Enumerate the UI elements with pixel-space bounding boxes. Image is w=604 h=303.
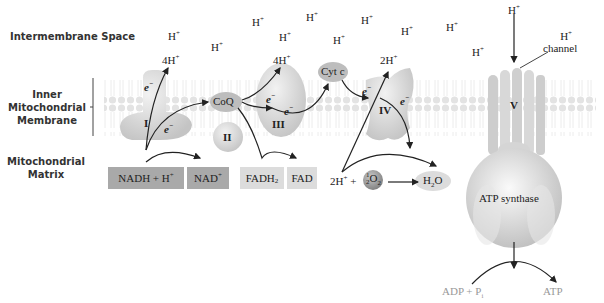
proton: H+	[508, 3, 520, 16]
matrix-line-2: Matrix	[6, 168, 86, 181]
atp-label: ATP	[543, 285, 563, 297]
proton-channel-label: H+ channel	[555, 27, 577, 54]
coq-label: CoQ	[213, 95, 234, 107]
electron-transport-chain-diagram: Intermembrane Space Inner Mitochondrial …	[0, 0, 604, 303]
proton: H+	[401, 24, 413, 37]
diagram-graphics	[0, 0, 604, 303]
electron: e−	[362, 84, 371, 97]
four-protons-complex-i: 4H+	[162, 53, 179, 66]
atp-synthase-label: ATP synthase	[479, 192, 539, 204]
electron: e−	[284, 104, 293, 117]
complex-i-label: I	[144, 117, 148, 129]
matrix-protons: 2H+ +	[330, 174, 356, 187]
proton: H+	[361, 13, 373, 26]
inner-membrane-label: Inner Mitochondrial Membrane	[4, 88, 90, 127]
electron: e−	[144, 80, 153, 93]
complex-iv-label: IV	[379, 104, 391, 116]
adp-pi-label: ADP + Pi	[442, 285, 483, 300]
nadh-box: NADH + H+	[108, 167, 184, 189]
proton: H+	[211, 40, 223, 53]
electron: e−	[164, 122, 173, 135]
complex-iii-label: III	[272, 118, 285, 130]
proton: H+	[306, 10, 318, 23]
proton: H+	[252, 15, 264, 28]
matrix-line-1: Mitochondrial	[6, 155, 86, 168]
complex-v-label: V	[510, 99, 518, 111]
fad-box: FAD	[287, 167, 317, 189]
fadh2-box: FADH2	[240, 167, 284, 189]
matrix-label: Mitochondrial Matrix	[6, 155, 86, 181]
proton: H+	[333, 33, 345, 46]
nad-box: NAD+	[187, 167, 229, 189]
electron: e−	[266, 92, 275, 105]
inner-membrane-line-1: Inner	[4, 88, 90, 101]
half-oxygen: 12O2	[366, 172, 381, 187]
cyt-c-label: Cyt c	[321, 65, 345, 77]
proton: H+	[446, 20, 458, 33]
proton: H+	[279, 30, 291, 43]
inner-membrane-line-2: Mitochondrial	[4, 101, 90, 114]
two-protons-complex-iv: 2H+	[380, 53, 397, 66]
electron: e−	[400, 94, 409, 107]
channel-label: channel	[543, 42, 577, 54]
complex-ii-label: II	[223, 131, 232, 143]
four-protons-complex-iii: 4H+	[273, 53, 290, 66]
proton: H+	[168, 29, 180, 42]
proton: H+	[472, 45, 484, 58]
intermembrane-space-label: Intermembrane Space	[10, 30, 135, 43]
water-product: H2O	[423, 174, 442, 189]
inner-membrane-line-3: Membrane	[4, 114, 90, 127]
